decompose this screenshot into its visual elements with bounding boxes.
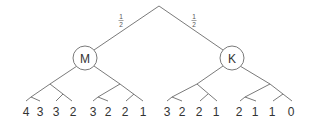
edge-k-left	[197, 66, 223, 84]
edge	[240, 97, 245, 101]
leaves-k: 3 2 2 1 2 1 1 0	[164, 105, 295, 119]
svg-text:2: 2	[119, 21, 123, 28]
edge	[26, 97, 31, 101]
edge	[31, 97, 40, 101]
edge	[31, 84, 50, 97]
leaf-value: 1	[140, 105, 147, 119]
leaf-value: 1	[213, 105, 220, 119]
leaf-value: 1	[269, 105, 276, 119]
edge	[93, 97, 98, 101]
leaf-value: 3	[53, 105, 60, 119]
edge	[197, 84, 217, 101]
leaf-value: 3	[90, 105, 97, 119]
leaf-value: 2	[179, 105, 186, 119]
edge	[172, 97, 182, 101]
edge-m-right	[94, 66, 120, 84]
edge-root-to-k	[159, 6, 223, 50]
node-k: K	[220, 46, 244, 70]
game-tree-diagram: 1 2 1 2 M K 4 3 3 2	[0, 0, 316, 120]
leaves-m: 4 3 3 2 3 2 2 1	[23, 105, 147, 119]
leaf-value: 0	[288, 105, 295, 119]
leaf-value: 2	[105, 105, 112, 119]
svg-text:1: 1	[119, 13, 123, 20]
edge	[245, 97, 256, 101]
edge-root-to-m	[94, 6, 159, 50]
leaf-value: 2	[70, 105, 77, 119]
svg-text:1: 1	[192, 13, 196, 20]
edge	[273, 94, 283, 101]
leaf-value: 2	[236, 105, 243, 119]
edge	[270, 84, 292, 101]
edge	[98, 97, 108, 101]
leaf-value: 3	[164, 105, 171, 119]
edge	[172, 84, 197, 97]
edge-m-left	[50, 66, 77, 84]
edge	[167, 97, 172, 101]
leaf-value: 4	[23, 105, 30, 119]
probability-label-left: 1 2	[119, 13, 124, 28]
leaf-value: 3	[37, 105, 44, 119]
edge	[50, 84, 72, 101]
edge	[200, 94, 208, 101]
leaf-value: 2	[122, 105, 129, 119]
leaf-value: 2	[196, 105, 203, 119]
edge	[126, 94, 134, 101]
edge-k-right	[240, 66, 270, 84]
svg-text:K: K	[228, 52, 236, 66]
edge	[245, 84, 270, 97]
probability-label-right: 1 2	[192, 13, 197, 28]
node-m: M	[73, 46, 97, 70]
edge	[120, 84, 143, 101]
leaf-value: 1	[252, 105, 259, 119]
svg-text:2: 2	[192, 21, 196, 28]
edge	[56, 94, 63, 101]
edge	[98, 84, 120, 97]
svg-text:M: M	[80, 52, 90, 66]
